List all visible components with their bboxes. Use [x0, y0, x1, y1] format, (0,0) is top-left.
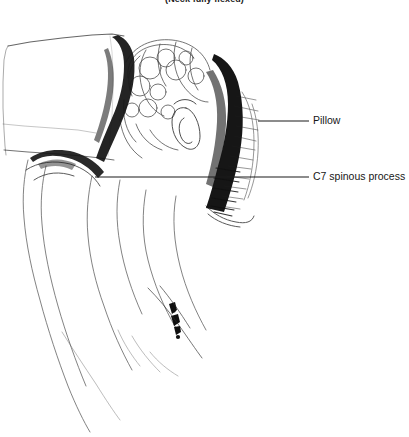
head-hair	[120, 40, 210, 158]
shadow-band-right	[206, 54, 243, 212]
figure-root: (Neck fully flexed)	[0, 0, 409, 437]
ear	[172, 100, 200, 150]
neck-back	[23, 160, 206, 432]
lower-faint-strokes	[62, 330, 178, 420]
shadow-band-left	[94, 35, 135, 162]
label-c7-spinous-process: C7 spinous process	[313, 171, 405, 182]
anatomical-illustration	[0, 0, 409, 437]
label-pillow: Pillow	[313, 115, 340, 126]
spine-marks	[169, 302, 181, 339]
